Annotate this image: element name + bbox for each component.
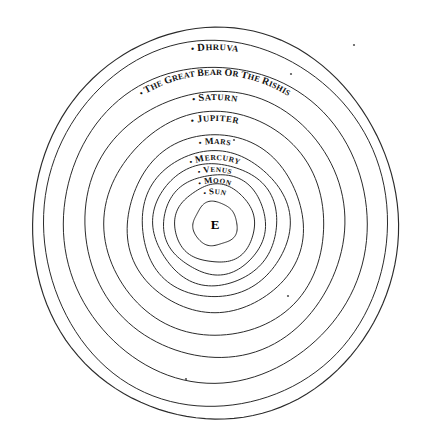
orbit-label-bullet-dhruva: • — [190, 43, 197, 54]
label-body: UPITER — [203, 113, 241, 126]
orbit-label-bullet-jupiter: • — [190, 115, 198, 126]
earth-center-label: E — [211, 217, 220, 232]
orbit-labels-group: • DHRUVA• THE GREAT BEAR OR THE RISHIS• … — [52, 41, 378, 224]
orbit-label-textpath-mercury: • MERCURY — [188, 153, 242, 167]
label-body: HRUVA — [205, 42, 239, 54]
cosmology-diagram: • DHRUVA• THE GREAT BEAR OR THE RISHIS• … — [0, 0, 437, 441]
label-initial: M — [204, 136, 214, 147]
orbit-label-bullet-saturn: • — [191, 93, 199, 104]
label-initial: V — [203, 164, 211, 175]
label-initial: D — [197, 41, 206, 53]
orbit-label-textpath-saturn: • SATURN — [191, 91, 239, 104]
orbit-label-bullet-sun: • — [202, 189, 209, 198]
paper-speck-1 — [290, 73, 292, 75]
label-body: OON — [213, 177, 233, 188]
orbit-label-textpath-sun: • SUN — [202, 186, 227, 198]
orbit-label-jupiter: • JUPITER — [190, 113, 241, 126]
label-initial: B — [196, 66, 204, 78]
orbit-label-mercury: • MERCURY — [188, 153, 242, 167]
label-body: R — [232, 69, 242, 79]
concentric-rings-svg: • DHRUVA• THE GREAT BEAR OR THE RISHIS• … — [0, 0, 437, 441]
orbit-label-mars: • MARS — [198, 136, 232, 148]
paper-speck-0 — [353, 44, 355, 46]
label-body: UN — [214, 188, 227, 198]
label-body: ATURN — [205, 92, 239, 104]
label-initial: S — [209, 186, 215, 196]
orbit-label-textpath-dhruva: • DHRUVA — [190, 41, 239, 54]
label-initial: M — [203, 175, 213, 186]
orbit-label-dhruva: • DHRUVA — [190, 41, 239, 54]
label-initial: S — [198, 91, 206, 103]
label-initial: O — [224, 66, 233, 78]
orbit-label-bullet-mars: • — [198, 138, 205, 148]
paper-speck-3 — [185, 378, 187, 380]
orbit-label-saturn: • SATURN — [191, 91, 239, 104]
orbit-label-textpath-jupiter: • JUPITER — [190, 113, 241, 126]
paper-speck-4 — [233, 139, 235, 141]
orbit-label-sun: • SUN — [202, 186, 227, 198]
orbit-label-textpath-mars: • MARS — [198, 136, 232, 148]
paper-speck-2 — [287, 295, 289, 297]
label-body: EAR — [204, 68, 225, 77]
label-body: ARS — [214, 137, 232, 148]
